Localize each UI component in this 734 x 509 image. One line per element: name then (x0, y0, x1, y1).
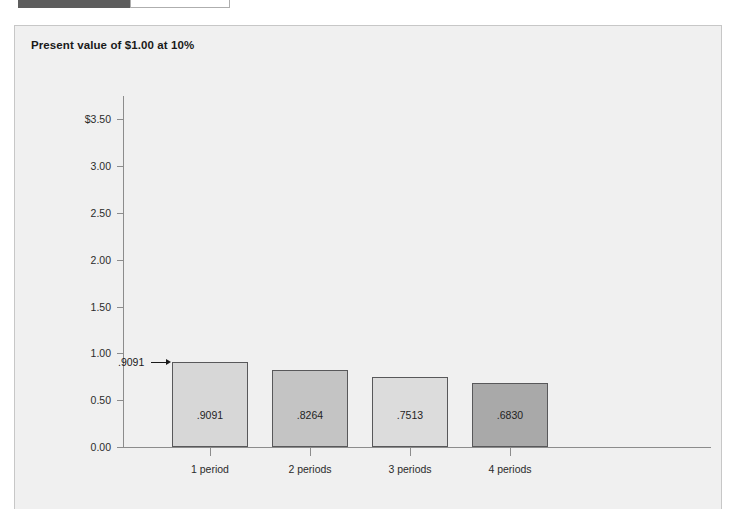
callout-label: .9091 (118, 356, 144, 368)
y-axis-tick (117, 447, 124, 448)
y-axis-tick (117, 119, 124, 120)
bar-value-label: .8264 (255, 409, 365, 421)
x-axis-tick (510, 448, 511, 456)
bar[interactable] (172, 362, 248, 447)
callout-arrow-line (151, 362, 167, 363)
x-axis-line (123, 447, 711, 448)
chart-panel: Present value of $1.00 at 10% $3.503.002… (14, 25, 722, 509)
x-axis-tick (410, 448, 411, 456)
x-axis-tick-label: 3 periods (355, 463, 465, 475)
y-axis-tick (117, 353, 124, 354)
callout-arrow-head-icon (166, 359, 171, 365)
y-axis-tick-label: 1.00 (51, 347, 111, 359)
x-axis-tick (210, 448, 211, 456)
y-axis-tick-label: 0.00 (51, 441, 111, 453)
y-axis-tick-label: 0.50 (51, 394, 111, 406)
x-axis-tick-label: 4 periods (455, 463, 565, 475)
y-axis-tick-label: $3.50 (51, 113, 111, 125)
y-axis-tick-label: 3.00 (51, 160, 111, 172)
chrome-dark-button[interactable] (18, 0, 130, 8)
x-axis-tick (310, 448, 311, 456)
bar-value-label: .9091 (155, 409, 265, 421)
bar-value-label: .6830 (455, 409, 565, 421)
chrome-faint-text: · · · (250, 0, 314, 3)
bar-chart-plot-area: $3.503.002.502.001.501.000.500.00 1 peri… (15, 26, 723, 509)
bar-value-label: .7513 (355, 409, 465, 421)
chrome-text-field[interactable] (130, 0, 230, 8)
y-axis-tick (117, 260, 124, 261)
window-chrome-strip: · · · (0, 0, 734, 12)
y-axis-tick (117, 213, 124, 214)
y-axis-tick-label: 2.50 (51, 207, 111, 219)
y-axis-tick (117, 400, 124, 401)
y-axis-line (123, 96, 124, 448)
y-axis-tick (117, 307, 124, 308)
y-axis-tick-label: 1.50 (51, 301, 111, 313)
x-axis-tick-label: 2 periods (255, 463, 365, 475)
y-axis-tick (117, 166, 124, 167)
x-axis-tick-label: 1 period (155, 463, 265, 475)
y-axis-tick-label: 2.00 (51, 254, 111, 266)
